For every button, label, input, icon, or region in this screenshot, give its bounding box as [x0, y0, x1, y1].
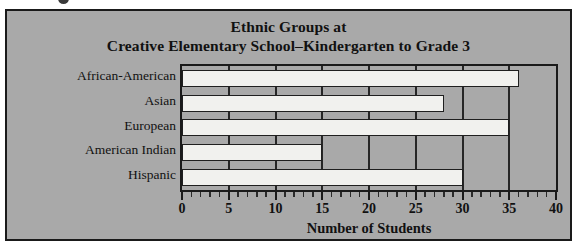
minor-tick-37 [527, 192, 529, 197]
minor-tick-12 [293, 192, 295, 197]
bar-american-indian [182, 144, 322, 161]
major-tick-10 [275, 192, 277, 200]
chart-figure: Ethnic Groups at Creative Elementary Sch… [5, 9, 572, 241]
x-tick-label-30: 30 [456, 201, 470, 217]
x-tick-label-25: 25 [409, 201, 423, 217]
y-axis-label-asian: Asian [145, 89, 177, 114]
x-axis-title: Number of Students [180, 220, 558, 237]
y-axis-label-american-indian: American Indian [85, 138, 176, 163]
bar-row [182, 66, 556, 91]
major-tick-0 [181, 192, 183, 200]
x-tick-label-35: 35 [502, 201, 516, 217]
y-axis-label-european: European [124, 114, 176, 139]
bar-row [182, 165, 556, 190]
minor-tick-14 [312, 192, 314, 197]
major-tick-35 [508, 192, 510, 200]
minor-tick-19 [359, 192, 361, 197]
minor-tick-9 [265, 192, 267, 197]
minor-tick-26 [424, 192, 426, 197]
minor-tick-38 [537, 192, 539, 197]
minor-tick-13 [303, 192, 305, 197]
minor-tick-6 [237, 192, 239, 197]
minor-tick-31 [471, 192, 473, 197]
x-tick-label-20: 20 [362, 201, 376, 217]
minor-tick-16 [331, 192, 333, 197]
scan-artifact [58, 0, 69, 4]
bar-row [182, 116, 556, 141]
bar-row [182, 140, 556, 165]
minor-tick-18 [350, 192, 352, 197]
x-tick-label-40: 40 [549, 201, 563, 217]
major-tick-40 [555, 192, 557, 200]
x-axis-tick-labels: 0510152025303540 [180, 201, 558, 221]
bar-african-american [182, 70, 519, 87]
bar-european [182, 119, 509, 136]
minor-tick-11 [284, 192, 286, 197]
chart-title: Ethnic Groups at Creative Elementary Sch… [7, 17, 570, 55]
minor-tick-32 [480, 192, 482, 197]
minor-tick-36 [518, 192, 520, 197]
x-axis-ticks [180, 192, 558, 201]
minor-tick-23 [396, 192, 398, 197]
minor-tick-2 [200, 192, 202, 197]
minor-tick-29 [452, 192, 454, 197]
chart-title-line-2: Creative Elementary School–Kindergarten … [7, 36, 570, 55]
major-tick-25 [415, 192, 417, 200]
minor-tick-33 [490, 192, 492, 197]
major-tick-15 [321, 192, 323, 200]
minor-tick-28 [443, 192, 445, 197]
minor-tick-24 [406, 192, 408, 197]
bar-asian [182, 95, 444, 112]
minor-tick-1 [191, 192, 193, 197]
x-tick-label-15: 15 [315, 201, 329, 217]
x-tick-label-5: 5 [225, 201, 232, 217]
minor-tick-34 [499, 192, 501, 197]
minor-tick-8 [256, 192, 258, 197]
major-tick-5 [228, 192, 230, 200]
bar-hispanic [182, 169, 463, 186]
major-tick-20 [368, 192, 370, 200]
y-axis-labels: African-AmericanAsianEuropeanAmerican In… [25, 64, 176, 192]
y-axis-label-african-american: African-American [77, 64, 176, 89]
minor-tick-27 [434, 192, 436, 197]
minor-tick-4 [219, 192, 221, 197]
minor-tick-17 [340, 192, 342, 197]
bar-row [182, 91, 556, 116]
minor-tick-22 [387, 192, 389, 197]
major-tick-30 [462, 192, 464, 200]
x-tick-label-10: 10 [269, 201, 283, 217]
minor-tick-7 [247, 192, 249, 197]
bar-series [182, 66, 556, 190]
minor-tick-3 [209, 192, 211, 197]
x-tick-label-0: 0 [179, 201, 186, 217]
plot-area [180, 64, 558, 192]
minor-tick-21 [378, 192, 380, 197]
minor-tick-39 [546, 192, 548, 197]
y-axis-label-hispanic: Hispanic [128, 163, 176, 188]
chart-title-line-1: Ethnic Groups at [7, 17, 570, 36]
